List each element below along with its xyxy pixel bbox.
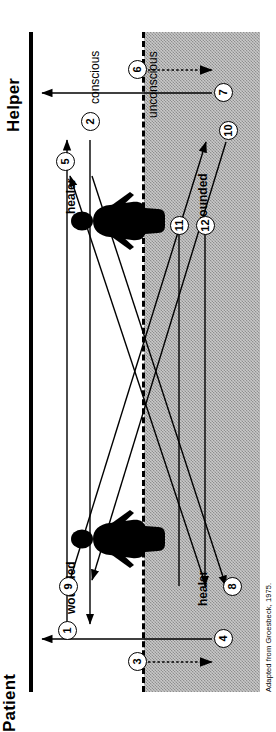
arrow-badge-10[interactable]: 10	[219, 121, 238, 140]
arrow-badge-6[interactable]: 6	[128, 60, 147, 79]
arrow-badge-12[interactable]: 12	[196, 216, 215, 235]
figure-canvas: Patient Helper wounded healer healer wou…	[0, 0, 276, 732]
page-title-helper: Helper	[4, 78, 24, 132]
arrow-badge-7[interactable]: 7	[214, 83, 233, 102]
helper-silhouette-icon	[70, 188, 166, 254]
arrow-badge-2[interactable]: 2	[81, 112, 100, 131]
page-title-patient: Patient	[0, 674, 20, 732]
frame-border-top	[29, 32, 33, 692]
label-patient-healer: healer	[196, 571, 210, 606]
arrow-badge-4[interactable]: 4	[214, 629, 233, 648]
attribution-text: Adapted from Groesbeck, 1975.	[264, 583, 273, 692]
arrow-badge-9[interactable]: 9	[59, 577, 78, 596]
arrow-badge-5[interactable]: 5	[56, 152, 75, 171]
label-conscious: conscious	[88, 51, 102, 104]
conscious-unconscious-divider	[142, 32, 145, 692]
label-unconscious: unconscious	[146, 51, 160, 118]
arrow-badge-8[interactable]: 8	[223, 577, 242, 596]
patient-silhouette-icon	[70, 506, 166, 572]
arrow-badge-11[interactable]: 11	[170, 216, 189, 235]
arrow-badge-1[interactable]: 1	[58, 621, 77, 640]
diagram-stage: Patient Helper wounded healer healer wou…	[0, 0, 276, 732]
arrow-badge-3[interactable]: 3	[128, 652, 147, 671]
